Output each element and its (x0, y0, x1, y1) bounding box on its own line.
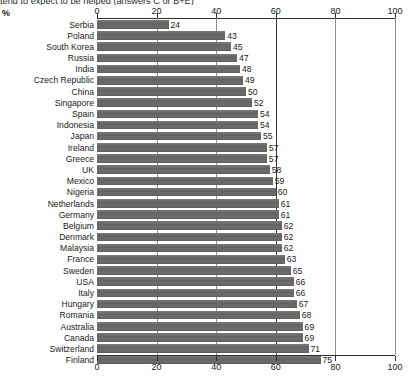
bar (97, 121, 258, 130)
bar (97, 266, 291, 275)
bar-row: Canada69 (0, 332, 409, 343)
bar-row: Nigeria60 (0, 187, 409, 198)
x-axis-tick-label: 40 (211, 362, 221, 372)
bar-value-label: 71 (311, 344, 321, 354)
bar (97, 277, 294, 286)
bar-row: Belgium62 (0, 220, 409, 231)
bar-value-label: 24 (171, 20, 181, 30)
x-axis-tick-mark (97, 13, 98, 18)
bar (97, 255, 285, 264)
bar-row: Malaysia62 (0, 243, 409, 254)
bar-value-label: 47 (239, 53, 249, 63)
bar (97, 344, 309, 353)
bar (97, 76, 243, 85)
bar-value-label: 49 (245, 75, 255, 85)
category-label: Spain (2, 109, 94, 119)
bar-row: Russia47 (0, 53, 409, 64)
bar-value-label: 54 (260, 109, 270, 119)
bar-row: Australia69 (0, 321, 409, 332)
category-label: Nigeria (2, 187, 94, 197)
x-axis-tick-label: 0 (94, 362, 99, 372)
bar (97, 110, 258, 119)
category-label: China (2, 87, 94, 97)
x-axis-tick-label: 60 (271, 362, 281, 372)
bar (97, 233, 282, 242)
bar (97, 154, 267, 163)
category-label: Netherlands (2, 199, 94, 209)
bar-row: Mexico59 (0, 176, 409, 187)
bar (97, 177, 273, 186)
x-axis-tick-mark (97, 356, 98, 361)
bar-value-label: 69 (305, 333, 315, 343)
category-label: Ireland (2, 143, 94, 153)
bar-value-label: 67 (299, 299, 309, 309)
bar (97, 31, 225, 40)
x-axis-top: 020406080100 (0, 6, 409, 18)
category-label: Denmark (2, 232, 94, 242)
bar (97, 210, 279, 219)
bar-row: UK58 (0, 164, 409, 175)
category-label: Italy (2, 288, 94, 298)
bar (97, 54, 237, 63)
bar-value-label: 63 (287, 254, 297, 264)
x-axis-bottom: 020406080100 (0, 362, 409, 374)
category-label: Belgium (2, 221, 94, 231)
bar-row: USA66 (0, 276, 409, 287)
bar (97, 244, 282, 253)
x-axis-tick-mark (335, 356, 336, 361)
bar (97, 132, 261, 141)
category-label: Singapore (2, 98, 94, 108)
bar (97, 221, 282, 230)
x-axis-tick-mark (157, 13, 158, 18)
category-label: Sweden (2, 266, 94, 276)
bar (97, 98, 252, 107)
category-label: Mexico (2, 176, 94, 186)
bar-row: Serbia24 (0, 19, 409, 30)
category-label: Australia (2, 322, 94, 332)
category-label: South Korea (2, 42, 94, 52)
bar (97, 311, 300, 320)
bar-row: China50 (0, 86, 409, 97)
bar (97, 87, 246, 96)
bar-row: India48 (0, 64, 409, 75)
category-label: Serbia (2, 20, 94, 30)
bar-row: France63 (0, 254, 409, 265)
bar-value-label: 57 (269, 154, 279, 164)
category-label: Malaysia (2, 243, 94, 253)
category-label: USA (2, 277, 94, 287)
bar-value-label: 62 (284, 232, 294, 242)
x-axis-tick-label: 100 (387, 362, 402, 372)
category-label: Switzerland (2, 344, 94, 354)
bar (97, 333, 303, 342)
bar-row: Spain54 (0, 109, 409, 120)
x-axis-tick-mark (395, 13, 396, 18)
bar-row: Greece57 (0, 153, 409, 164)
bar-value-label: 54 (260, 120, 270, 130)
category-label: Russia (2, 53, 94, 63)
x-axis-tick-mark (157, 356, 158, 361)
category-label: UK (2, 165, 94, 175)
bar-value-label: 61 (281, 199, 291, 209)
bar-row: Indonesia54 (0, 120, 409, 131)
bar-value-label: 60 (278, 187, 288, 197)
category-label: Indonesia (2, 120, 94, 130)
category-label: France (2, 254, 94, 264)
bar-row: Sweden65 (0, 265, 409, 276)
x-axis-tick-label: 80 (330, 362, 340, 372)
bar-value-label: 52 (254, 98, 264, 108)
bar-row: Japan55 (0, 131, 409, 142)
bar (97, 143, 267, 152)
bar-value-label: 61 (281, 210, 291, 220)
bar-value-label: 68 (302, 310, 312, 320)
bar-row: Germany61 (0, 209, 409, 220)
bar-row: Switzerland71 (0, 343, 409, 354)
bar-value-label: 66 (296, 288, 306, 298)
bar (97, 188, 276, 197)
bar-row: Hungary67 (0, 299, 409, 310)
bar-row: Italy66 (0, 288, 409, 299)
bar-row: South Korea45 (0, 41, 409, 52)
x-axis-tick-mark (276, 356, 277, 361)
bar-value-label: 66 (296, 277, 306, 287)
bar-value-label: 57 (269, 143, 279, 153)
x-axis-tick-mark (216, 13, 217, 18)
